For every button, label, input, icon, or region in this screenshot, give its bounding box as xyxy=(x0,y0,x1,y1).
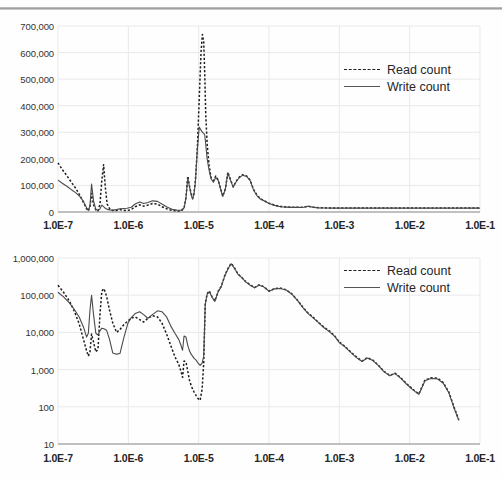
legend-label-write: Write count xyxy=(387,281,450,295)
legend-log: Read count Write count xyxy=(344,262,451,296)
solid-line-icon xyxy=(344,86,380,87)
legend-label-read: Read count xyxy=(387,63,451,77)
dashed-line-icon xyxy=(344,69,380,70)
legend-linear: Read count Write count xyxy=(344,61,451,95)
plot-area-linear xyxy=(0,14,502,236)
legend-label-read: Read count xyxy=(387,264,451,278)
page-top-rule xyxy=(0,7,502,10)
legend-item-read: Read count xyxy=(344,262,451,279)
solid-line-icon xyxy=(344,287,380,288)
dashed-line-icon xyxy=(344,270,380,271)
legend-item-write: Write count xyxy=(344,279,451,296)
legend-item-read: Read count xyxy=(344,61,451,78)
figure-page: 0100,000200,000300,000400,000500,000600,… xyxy=(0,0,502,479)
chart-log: 101001,00010,000100,0001,000,000 1.0E-71… xyxy=(0,240,502,479)
chart-linear: 0100,000200,000300,000400,000500,000600,… xyxy=(0,14,502,236)
legend-label-write: Write count xyxy=(387,80,450,94)
legend-item-write: Write count xyxy=(344,78,451,95)
